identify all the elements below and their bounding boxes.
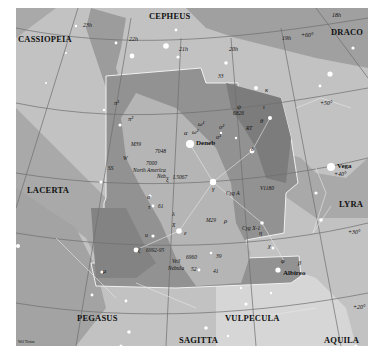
ra-label-18h: 18h	[332, 12, 341, 18]
catalog-label-nebula: Nebula	[168, 266, 184, 272]
catalog-label-veil: Veil	[172, 259, 180, 265]
catalog-label-v1180: V1180	[260, 186, 274, 192]
greek-label-theta: θ	[260, 118, 263, 125]
catalog-label-w: W	[123, 156, 128, 162]
greek-label-alpha: α	[184, 130, 187, 137]
greek-label-delta: δ	[251, 146, 254, 153]
greek-label-phi: φ	[281, 258, 285, 265]
greek-label-omicron2: ο²	[219, 124, 224, 131]
ra-label-19h: 19h	[282, 35, 291, 41]
catalog-label-7000: 7000	[146, 161, 157, 167]
greek-label-zeta: ζ	[138, 247, 141, 254]
star-label-deneb: Deneb	[196, 140, 215, 147]
greek-label-iota: ι	[263, 104, 265, 111]
dec-label-plus30: +30°	[348, 229, 360, 235]
ra-label-23h: 23h	[83, 22, 92, 28]
greek-label-tau: τ	[148, 204, 150, 211]
catalog-label-6826: 6826	[233, 111, 244, 117]
constellation-label-lacerta: LACERTA	[27, 186, 69, 195]
greek-label-rho: ρ	[224, 218, 227, 225]
star-label-albireo: Albireo	[283, 270, 305, 277]
constellation-label-cassiopeia: CASSIOPEIA	[18, 35, 72, 44]
star-chart-map: CASSIOPEIA CEPHEUS DRACO LACERTA LYRA PE…	[16, 8, 368, 346]
greek-label-mu: μ	[103, 268, 106, 275]
greek-label-kappa: κ	[265, 87, 268, 94]
ra-label-21h: 21h	[179, 46, 188, 52]
numbered-star-41: 41	[213, 269, 219, 275]
dec-label-plus20: +20°	[353, 304, 365, 310]
star-iota	[268, 116, 272, 120]
ra-label-22h: 22h	[129, 36, 138, 42]
dec-label-plus60: +60°	[301, 32, 313, 38]
catalog-label-6992-95: 6992-95	[146, 248, 164, 254]
catalog-label-rt: RT	[246, 126, 252, 132]
ra-label-20h: 20h	[229, 46, 238, 52]
star-label-vega: Vega	[337, 163, 352, 170]
catalog-label-x: X	[172, 223, 175, 229]
greek-label-omega1: ω¹	[198, 121, 205, 128]
catalog-label-cyg-x1: Cyg X-1	[242, 226, 260, 232]
constellation-label-aquila: AQUILA	[324, 336, 359, 345]
catalog-label-i5067: I.5067	[173, 175, 187, 181]
star-epsilon	[176, 228, 182, 234]
map-graphics	[16, 8, 368, 346]
greek-label-omega2: ω²	[192, 129, 199, 136]
greek-label-lambda: λ	[172, 211, 175, 218]
greek-label-pi1: π¹	[114, 100, 119, 107]
constellation-label-cepheus: CEPHEUS	[149, 12, 191, 21]
constellation-label-draco: DRACO	[331, 28, 363, 37]
catalog-label-ss: SS	[108, 166, 114, 172]
greek-label-epsilon: ε	[184, 230, 187, 237]
numbered-star-33: 33	[218, 74, 224, 80]
greek-label-pi2: π²	[128, 116, 133, 123]
catalog-label-m29: M29	[206, 218, 216, 224]
greek-label-chi: χ	[268, 243, 271, 250]
star-albireo	[275, 267, 280, 272]
numbered-star-52: 52	[191, 267, 197, 273]
catalog-label-m39: M39	[131, 142, 141, 148]
greek-label-omicron1: ο¹	[216, 134, 221, 141]
constellation-label-pegasus: PEGASUS	[77, 314, 118, 323]
catalog-label-cyg-a: Cyg A	[226, 191, 240, 197]
constellation-label-lyra: LYRA	[339, 200, 363, 209]
dec-label-plus40: +40°	[334, 171, 346, 177]
star-vega	[327, 163, 335, 171]
star-deneb	[186, 140, 194, 148]
constellation-label-vulpecula: VULPECULA	[225, 314, 280, 323]
map-credit: Wil Tirion	[18, 340, 35, 344]
catalog-label-6960: 6960	[186, 255, 197, 261]
greek-label-gamma: γ	[212, 186, 215, 193]
catalog-label-neb: Neb.	[157, 174, 167, 180]
dec-label-plus50: +50°	[320, 100, 332, 106]
greek-label-upsilon: υ	[145, 232, 148, 239]
catalog-label-7048: 7048	[155, 149, 166, 155]
constellation-label-sagitta: SAGITTA	[179, 336, 218, 345]
numbered-star-39: 39	[216, 254, 222, 260]
greek-label-beta: β	[298, 260, 301, 267]
greek-label-sigma: σ	[147, 194, 150, 201]
numbered-star-61: 61	[158, 204, 164, 210]
